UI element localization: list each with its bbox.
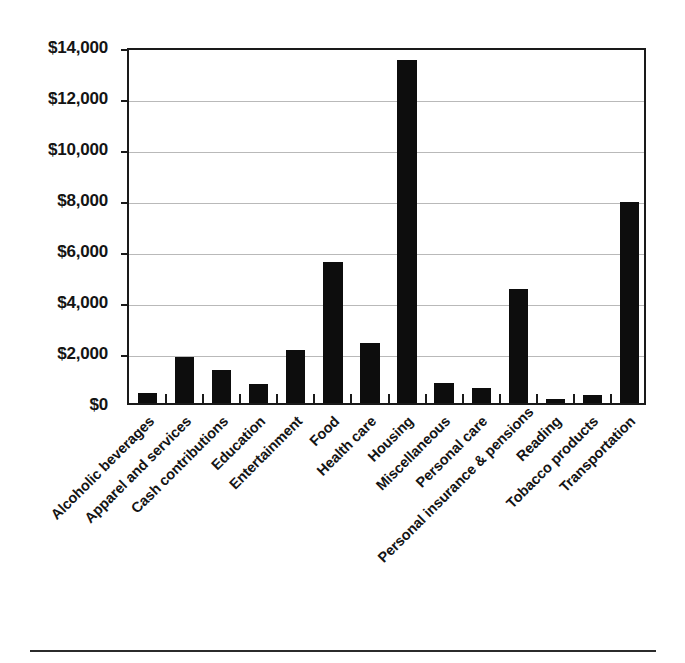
bar[interactable]	[212, 370, 231, 403]
y-tick-mark	[121, 355, 129, 357]
y-tick-label: $4,000	[0, 294, 118, 311]
y-tick-label: $10,000	[0, 141, 118, 158]
x-tick-mark	[573, 394, 575, 403]
x-axis-tick-labels: Alcoholic beveragesApparel and servicesC…	[0, 405, 685, 615]
bar[interactable]	[434, 383, 453, 403]
bar[interactable]	[472, 388, 491, 403]
y-tick-mark	[121, 304, 129, 306]
y-tick-mark	[121, 202, 129, 204]
bar[interactable]	[509, 289, 528, 403]
x-tick-mark	[610, 394, 612, 403]
bar[interactable]	[397, 60, 416, 403]
x-tick-mark	[165, 394, 167, 403]
bar-series	[129, 50, 644, 403]
x-tick-mark	[313, 394, 315, 403]
y-tick-label: $8,000	[0, 192, 118, 209]
bar[interactable]	[323, 262, 342, 403]
x-tick-mark	[462, 394, 464, 403]
x-tick-mark	[499, 394, 501, 403]
x-tick-mark	[239, 394, 241, 403]
y-tick-mark	[121, 151, 129, 153]
bar[interactable]	[360, 343, 379, 403]
x-tick-mark	[425, 394, 427, 403]
bar[interactable]	[583, 395, 602, 403]
bar[interactable]	[249, 384, 268, 403]
x-tick-mark	[388, 394, 390, 403]
y-tick-label: $2,000	[0, 345, 118, 362]
x-tick-mark	[536, 394, 538, 403]
y-tick-label: $14,000	[0, 39, 118, 56]
y-tick-mark	[121, 49, 129, 51]
x-tick-mark	[350, 394, 352, 403]
bar[interactable]	[175, 357, 194, 403]
bar[interactable]	[620, 202, 639, 403]
bottom-divider	[30, 650, 656, 652]
x-tick-mark	[276, 394, 278, 403]
bar[interactable]	[546, 399, 565, 403]
y-tick-label: $12,000	[0, 90, 118, 107]
x-tick-mark	[202, 394, 204, 403]
bar[interactable]	[286, 350, 305, 403]
y-tick-mark	[121, 100, 129, 102]
y-tick-label: $6,000	[0, 243, 118, 260]
plot-area	[127, 48, 646, 405]
bar[interactable]	[138, 393, 157, 403]
bar-chart-figure: $0$2,000$4,000$6,000$8,000$10,000$12,000…	[0, 0, 685, 663]
y-tick-mark	[121, 253, 129, 255]
